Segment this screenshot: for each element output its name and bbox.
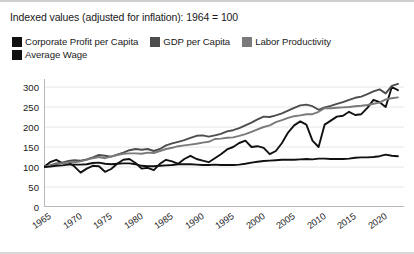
y-tick-label: 200 (23, 122, 39, 133)
y-tick-label: 300 (23, 82, 39, 93)
x-tick-label: 2020 (366, 211, 388, 231)
legend-swatch-icon (242, 37, 252, 47)
x-tick-label: 1990 (183, 211, 205, 231)
y-tick-label: 0 (34, 202, 39, 213)
x-tick-label: 1970 (61, 211, 83, 231)
x-tick-label: 1980 (122, 211, 144, 231)
y-tick-label: 100 (23, 162, 39, 173)
legend-label: Average Wage (25, 49, 87, 61)
legend-swatch-icon (150, 37, 160, 47)
y-tick-label: 50 (28, 182, 39, 193)
chart-legend: Corporate Profit per CapitaGDP per Capit… (12, 36, 407, 62)
axis-lines (44, 79, 404, 207)
x-tick-label: 2015 (336, 211, 358, 231)
series-lines (44, 84, 398, 173)
x-axis-tick-labels: 1965197019751980198519901995200020052010… (44, 209, 404, 249)
legend-label: Corporate Profit per Capita (25, 36, 138, 48)
x-tick-label: 1995 (213, 211, 235, 231)
legend-label: Labor Productivity (255, 36, 331, 48)
x-tick-label: 2000 (244, 211, 266, 231)
plot-area (44, 79, 404, 207)
chart-figure: Indexed values (adjusted for inflation):… (0, 0, 414, 254)
top-divider (0, 0, 414, 2)
legend-label: GDP per Capita (163, 36, 230, 48)
y-tick-label: 150 (23, 142, 39, 153)
y-tick-label: 250 (23, 102, 39, 113)
x-tick-label: 1975 (91, 211, 113, 231)
legend-item-2[interactable]: Labor Productivity (242, 36, 331, 48)
legend-swatch-icon (12, 50, 22, 60)
chart-title: Indexed values (adjusted for inflation):… (10, 11, 238, 23)
gridlines (44, 87, 404, 187)
legend-item-0[interactable]: Corporate Profit per Capita (12, 36, 138, 48)
plot-svg (44, 79, 404, 207)
legend-row: Corporate Profit per CapitaGDP per Capit… (12, 36, 407, 48)
x-tick-label: 2010 (305, 211, 327, 231)
series-line-2 (44, 97, 398, 167)
x-tick-label: 2005 (274, 211, 296, 231)
legend-item-3[interactable]: Average Wage (12, 49, 87, 61)
x-tick-label: 1985 (152, 211, 174, 231)
y-axis-tick-labels: 050100150200250300 (0, 79, 39, 229)
legend-swatch-icon (12, 37, 22, 47)
legend-item-1[interactable]: GDP per Capita (150, 36, 230, 48)
legend-row: Average Wage (12, 49, 407, 61)
